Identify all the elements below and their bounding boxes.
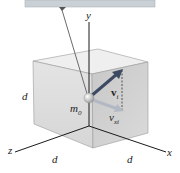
vi-label-sub: i	[117, 93, 119, 101]
ceiling-bar	[25, 0, 155, 7]
z-axis-label: z	[8, 145, 12, 156]
diagram: y z x d d d m0 vi vxi	[0, 0, 180, 173]
vi-label: vi	[111, 87, 118, 101]
mass-label-sub: 0	[78, 109, 82, 117]
vxi-label-sub: xi	[114, 118, 119, 126]
side-label-bottom-left: d	[52, 154, 58, 165]
y-axis-label: y	[86, 10, 91, 21]
mass-label-main: m	[70, 102, 78, 114]
x-axis-label: x	[167, 147, 172, 158]
side-label-left: d	[22, 91, 28, 102]
vxi-label: vxi	[109, 112, 119, 126]
mass-label: m0	[70, 103, 81, 117]
side-label-bottom-right: d	[127, 154, 133, 165]
cube-diagram-svg	[0, 0, 180, 173]
mass-ball	[84, 93, 94, 103]
